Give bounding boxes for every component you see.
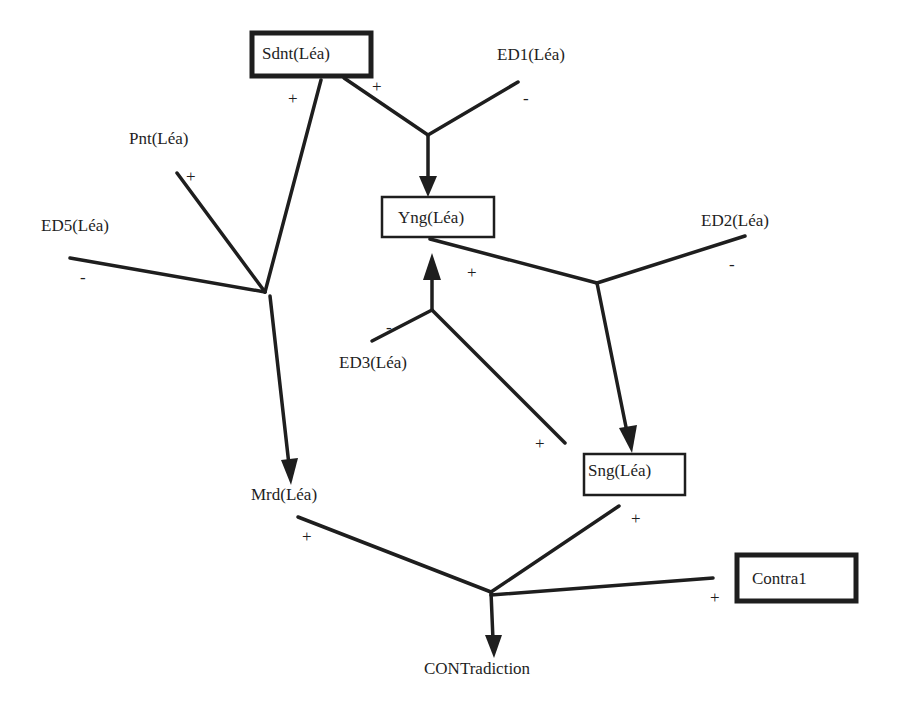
sign-pnt-to-mrd: + (186, 167, 196, 186)
node-label-ed2: ED2(Léa) (701, 211, 769, 230)
node-label-mrd: Mrd(Léa) (251, 485, 317, 504)
node-label-sng: Sng(Léa) (588, 461, 651, 480)
edge-pnt-to-mrd-junction (177, 173, 265, 292)
sign-mrd-to-contra: + (302, 527, 312, 546)
edge-ed2-to-sng-junction (597, 236, 745, 283)
sign-ed2-to-sng: - (729, 255, 735, 274)
edge-junction-to-sng (597, 283, 627, 432)
arrowhead-to-sng (619, 425, 637, 453)
arrowhead-to-mrd (281, 458, 298, 485)
sign-ed3-to-yng: - (386, 318, 392, 337)
edge-mrd-to-contra-junction (298, 517, 491, 592)
edge-junction-to-mrd (270, 296, 289, 465)
node-label-yng: Yng(Léa) (398, 208, 464, 227)
sign-sdnt-to-yng: + (372, 77, 382, 96)
sign-sng-to-contra: + (631, 509, 641, 528)
edge-ed5-to-mrd-junction (70, 258, 265, 292)
edge-ed3-to-yng-junction (372, 310, 432, 341)
sign-sdnt-to-mrd: + (288, 89, 298, 108)
node-label-ed1: ED1(Léa) (497, 45, 565, 64)
node-label-contra1: Contra1 (752, 569, 807, 588)
edge-sng-to-contra-junction (491, 506, 619, 592)
arrowhead-to-yng (419, 176, 437, 197)
arrowhead-to-contradiction (485, 635, 502, 658)
sign-contra1-to-contra: + (710, 588, 720, 607)
node-label-ed5: ED5(Léa) (41, 216, 109, 235)
edge-sdnt-to-mrd-junction (265, 80, 321, 292)
node-label-pnt: Pnt(Léa) (129, 129, 188, 148)
causal-diagram: Sdnt(Léa) ED1(Léa) Pnt(Léa) ED5(Léa) Yng… (0, 0, 897, 714)
node-label-contradiction: CONTradiction (424, 659, 531, 678)
node-label-ed3: ED3(Léa) (339, 353, 407, 372)
edge-ed1-to-yng-junction (428, 82, 518, 135)
sign-sng-to-yng: + (535, 434, 545, 453)
sign-ed5-to-mrd: - (80, 268, 86, 287)
sign-ed1-to-yng: - (523, 89, 529, 108)
arrowhead-up-to-yng (423, 253, 441, 280)
edge-junction-to-contradiction (491, 592, 493, 640)
node-label-sdnt: Sdnt(Léa) (262, 44, 330, 63)
edge-sng-to-yng-junction (432, 310, 565, 443)
edge-sdnt-to-yng-junction (344, 78, 428, 135)
edge-yng-to-sng-junction (430, 239, 597, 283)
edge-contra1-to-contra-junction (491, 578, 713, 595)
sign-yng-to-sng: + (467, 263, 477, 282)
